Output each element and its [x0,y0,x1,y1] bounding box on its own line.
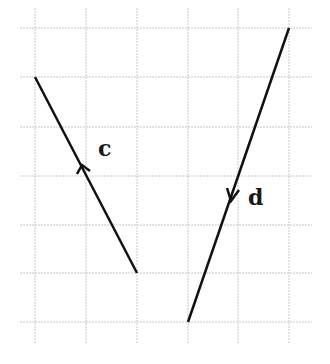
vector-c-label: c [98,135,111,161]
vector-d-label: d [248,184,263,210]
vector-diagram: c d [0,0,330,364]
grid [20,8,312,343]
